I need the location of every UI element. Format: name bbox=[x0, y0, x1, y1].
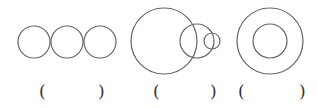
three-tangent-circles bbox=[18, 26, 116, 58]
circle bbox=[51, 26, 83, 58]
three-intersecting-circles bbox=[131, 8, 220, 74]
answer-open-paren-3: ( bbox=[238, 83, 245, 100]
circle bbox=[253, 24, 287, 58]
concentric-circles bbox=[237, 8, 303, 74]
answer-close-paren-2: ) bbox=[210, 83, 217, 100]
answer-open-paren-1: ( bbox=[39, 83, 46, 100]
answer-close-paren-3: ) bbox=[299, 83, 306, 100]
circle bbox=[131, 8, 197, 74]
circle bbox=[204, 33, 220, 49]
answer-close-paren-1: ) bbox=[98, 83, 105, 100]
circle bbox=[237, 8, 303, 74]
circle bbox=[84, 26, 116, 58]
circle bbox=[18, 26, 50, 58]
answer-open-paren-2: ( bbox=[153, 83, 160, 100]
